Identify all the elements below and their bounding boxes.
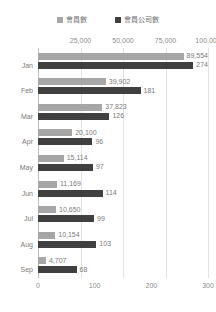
bar-value-member-companies: 68 — [80, 266, 88, 274]
bar-value-member-companies: 114 — [106, 189, 117, 197]
legend-label-member-companies: 會員公司數 — [124, 16, 159, 24]
bar-group: 10,154103 — [38, 227, 208, 253]
bar-value-members: 11,169 — [60, 180, 81, 188]
bar-group: 39,902181 — [38, 74, 208, 100]
bottom-tick-label: 0 — [36, 281, 40, 290]
category-label: Sep — [21, 265, 33, 274]
legend-item-member-companies[interactable]: 會員公司數 — [115, 16, 159, 24]
bar-member-companies[interactable] — [38, 87, 141, 94]
bar-row-member-companies: 181 — [38, 87, 208, 94]
bar-value-members: 15,114 — [67, 154, 88, 162]
bar-row-members: 10,650 — [38, 206, 208, 213]
bar-value-members: 10,650 — [59, 206, 80, 214]
bar-row-member-companies: 99 — [38, 215, 208, 222]
legend-swatch-members — [57, 17, 63, 23]
top-tick-label: 25,000 — [70, 36, 91, 45]
bar-member-companies[interactable] — [38, 215, 94, 222]
bottom-tick-label: 300 — [202, 281, 214, 290]
bar-row-members: 11,169 — [38, 181, 208, 188]
bar-member-companies[interactable] — [38, 164, 93, 171]
bar-value-members: 10,154 — [58, 231, 79, 239]
legend-swatch-member-companies — [115, 17, 121, 23]
bar-row-members: 39,902 — [38, 78, 208, 85]
bar-value-member-companies: 97 — [96, 163, 104, 171]
bottom-axis-tick-labels: 0100200300 — [38, 281, 208, 291]
bar-row-members: 20,100 — [38, 129, 208, 136]
bar-member-companies[interactable] — [38, 138, 92, 145]
bar-chart: 會員數 會員公司數 25,00050,00075,000100,000 JanF… — [0, 0, 216, 312]
category-label: Feb — [21, 86, 33, 95]
category-label: Jan — [22, 60, 33, 69]
bar-members[interactable] — [38, 232, 55, 239]
bar-member-companies[interactable] — [38, 266, 77, 273]
bar-row-members: 89,554 — [38, 53, 208, 60]
bar-members[interactable] — [38, 53, 184, 60]
bar-group: 4,70768 — [38, 252, 208, 278]
chart-legend: 會員數 會員公司數 — [0, 13, 216, 27]
bar-value-member-companies: 99 — [97, 215, 105, 223]
bar-row-members: 15,114 — [38, 155, 208, 162]
category-axis-labels: JanFebMarAprMayJunJulAugSep — [0, 48, 36, 278]
bar-group: 11,169114 — [38, 176, 208, 202]
bar-members[interactable] — [38, 78, 106, 85]
bar-members[interactable] — [38, 206, 56, 213]
bar-members[interactable] — [38, 155, 64, 162]
category-label: Jun — [22, 188, 33, 197]
bar-row-member-companies: 97 — [38, 164, 208, 171]
bar-value-member-companies: 126 — [112, 112, 124, 120]
bar-value-member-companies: 274 — [196, 61, 208, 69]
legend-label-members: 會員數 — [66, 16, 87, 24]
bar-value-members: 20,100 — [75, 129, 96, 137]
top-tick-label: 50,000 — [112, 36, 133, 45]
bar-row-member-companies: 274 — [38, 62, 208, 69]
category-label: Jul — [24, 214, 33, 223]
bar-member-companies[interactable] — [38, 241, 96, 248]
bar-row-member-companies: 114 — [38, 190, 208, 197]
plot-area: 89,55427439,90218137,82312620,1009615,11… — [38, 48, 208, 278]
bar-members[interactable] — [38, 129, 72, 136]
bar-member-companies[interactable] — [38, 190, 103, 197]
bar-member-companies[interactable] — [38, 113, 109, 120]
category-label: Aug — [21, 239, 33, 248]
bottom-tick-label: 100 — [89, 281, 101, 290]
top-tick-label: 75,000 — [155, 36, 176, 45]
bar-members[interactable] — [38, 257, 46, 264]
bar-value-members: 89,554 — [187, 52, 208, 60]
bar-group: 15,11497 — [38, 150, 208, 176]
bar-row-member-companies: 103 — [38, 241, 208, 248]
bar-value-member-companies: 181 — [144, 87, 156, 95]
legend-item-members[interactable]: 會員數 — [57, 16, 87, 24]
bar-members[interactable] — [38, 104, 102, 111]
top-axis-tick-labels: 25,00050,00075,000100,000 — [38, 36, 208, 46]
bar-row-member-companies: 68 — [38, 266, 208, 273]
bar-value-member-companies: 96 — [95, 138, 103, 146]
category-label: Apr — [22, 137, 33, 146]
category-label: Mar — [21, 111, 33, 120]
bar-group: 37,823126 — [38, 99, 208, 125]
bar-row-member-companies: 96 — [38, 138, 208, 145]
gridline — [208, 48, 209, 278]
bar-value-members: 37,823 — [105, 103, 126, 111]
bar-row-member-companies: 126 — [38, 113, 208, 120]
bar-group: 10,65099 — [38, 201, 208, 227]
top-tick-label: 100,000 — [195, 36, 216, 45]
bar-value-member-companies: 103 — [99, 240, 111, 248]
bar-groups: 89,55427439,90218137,82312620,1009615,11… — [38, 48, 208, 278]
bar-row-members: 10,154 — [38, 232, 208, 239]
bar-value-members: 4,707 — [49, 257, 67, 265]
bar-group: 89,554274 — [38, 48, 208, 74]
bar-member-companies[interactable] — [38, 62, 193, 69]
bar-members[interactable] — [38, 181, 57, 188]
bar-group: 20,10096 — [38, 125, 208, 151]
bar-row-members: 37,823 — [38, 104, 208, 111]
bar-value-members: 39,902 — [109, 78, 130, 86]
bottom-tick-label: 200 — [145, 281, 157, 290]
bar-row-members: 4,707 — [38, 257, 208, 264]
category-label: May — [20, 163, 33, 172]
